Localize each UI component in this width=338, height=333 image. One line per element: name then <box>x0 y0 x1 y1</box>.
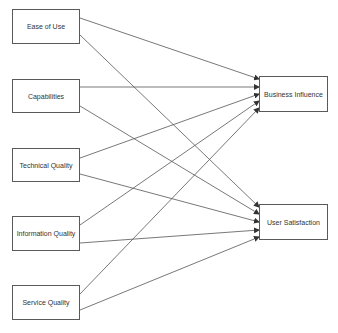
node-label: Information Quality <box>17 230 76 237</box>
edge-info-us <box>80 230 259 243</box>
node-user-satisfaction: User Satisfaction <box>259 204 328 240</box>
edge-tech-bi <box>80 94 259 158</box>
edge-ease-bi <box>80 18 259 79</box>
node-label: Service Quality <box>22 299 69 306</box>
node-label: User Satisfaction <box>267 219 320 226</box>
node-service-quality: Service Quality <box>12 285 80 320</box>
node-capabilities: Capabilities <box>12 79 80 113</box>
node-label: Technical Quality <box>20 162 73 169</box>
edge-serv-us <box>80 237 259 310</box>
node-business-influence: Business Influence <box>259 76 328 112</box>
node-label: Capabilities <box>28 93 64 100</box>
node-technical-quality: Technical Quality <box>12 148 80 182</box>
node-information-quality: Information Quality <box>12 216 80 251</box>
edge-info-bi <box>80 101 259 225</box>
node-label: Ease of Use <box>27 23 65 30</box>
node-ease-of-use: Ease of Use <box>12 9 80 44</box>
node-label: Business Influence <box>264 91 323 98</box>
edge-serv-bi <box>80 108 259 294</box>
